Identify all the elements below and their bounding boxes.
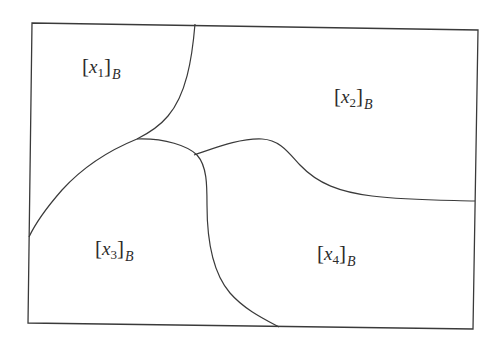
region-label-1: [x1]B	[82, 56, 121, 77]
open-bracket: [	[95, 236, 102, 260]
open-bracket: [	[334, 84, 341, 108]
label-basis: B	[364, 97, 373, 112]
label-basis: B	[347, 254, 356, 269]
boundary-1-3	[29, 139, 137, 237]
close-bracket: ]	[356, 84, 363, 108]
boundary-1-2	[137, 24, 195, 139]
partition-diagram	[0, 0, 500, 344]
region-label-4: [x4]B	[317, 243, 356, 264]
close-bracket: ]	[104, 54, 111, 78]
close-bracket: ]	[339, 241, 346, 265]
label-index: 1	[97, 65, 104, 80]
region-label-3: [x3]B	[95, 238, 134, 259]
label-basis: B	[112, 67, 121, 82]
boundary-2-4	[194, 139, 475, 201]
label-index: 3	[110, 247, 117, 262]
open-bracket: [	[317, 241, 324, 265]
close-bracket: ]	[117, 236, 124, 260]
label-index: 4	[332, 252, 339, 267]
label-index: 2	[349, 95, 356, 110]
label-basis: B	[125, 249, 134, 264]
region-label-2: [x2]B	[334, 86, 373, 107]
boundary-3-4	[137, 139, 279, 327]
open-bracket: [	[82, 54, 89, 78]
